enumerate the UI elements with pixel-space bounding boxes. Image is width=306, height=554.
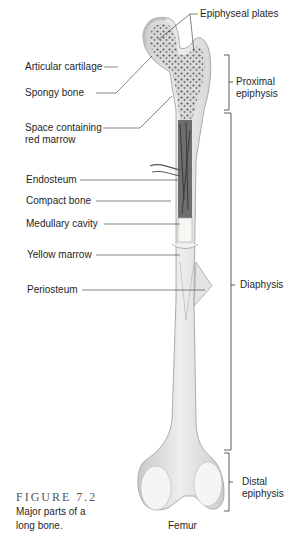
label-space-red-marrow-2: red marrow bbox=[25, 134, 76, 146]
label-endosteum: Endosteum bbox=[26, 174, 77, 186]
label-distal-1: Distal bbox=[242, 476, 267, 488]
label-medullary-cavity: Medullary cavity bbox=[26, 218, 98, 230]
label-periosteum: Periosteum bbox=[27, 284, 78, 296]
region-brackets bbox=[224, 55, 235, 511]
label-proximal-1: Proximal bbox=[236, 76, 275, 88]
figure-caption: Major parts of a long bone. bbox=[16, 505, 106, 533]
label-articular-cartilage: Articular cartilage bbox=[25, 61, 102, 73]
label-proximal-2: epiphysis bbox=[236, 88, 278, 100]
label-space-red-marrow-1: Space containing bbox=[25, 122, 102, 134]
label-distal-2: epiphysis bbox=[242, 488, 284, 500]
label-spongy-bone: Spongy bone bbox=[25, 87, 84, 99]
bone-body bbox=[138, 17, 224, 510]
caption-line-2: long bone. bbox=[16, 519, 106, 533]
caption-line-1: Major parts of a bbox=[16, 505, 106, 519]
label-diaphysis: Diaphysis bbox=[240, 279, 283, 291]
label-compact-bone: Compact bone bbox=[26, 195, 91, 207]
figure-number: FIGURE 7.2 bbox=[16, 490, 97, 505]
label-yellow-marrow: Yellow marrow bbox=[27, 249, 92, 261]
label-epiphyseal-plates: Epiphyseal plates bbox=[200, 8, 278, 20]
label-femur: Femur bbox=[168, 520, 197, 532]
